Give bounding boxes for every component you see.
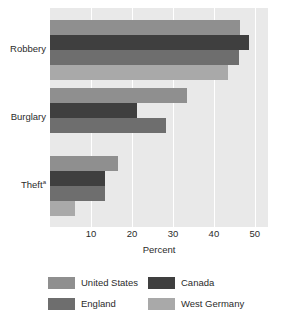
legend-item-england[interactable]: England: [48, 298, 148, 310]
bar-chart-figure: Robbery Burglary Thefta Percent United S…: [0, 0, 283, 312]
bar-robbery-united-states: [50, 20, 240, 35]
x-tick-label-10: 10: [79, 229, 103, 239]
footnote-marker-a: a: [43, 179, 46, 185]
legend-item-west-germany[interactable]: West Germany: [148, 298, 263, 310]
x-tick-label-30: 30: [161, 229, 185, 239]
bar-group-burglary: [50, 88, 268, 148]
legend-item-united-states[interactable]: United States: [48, 277, 148, 289]
x-tick-label-50: 50: [243, 229, 267, 239]
x-tick-label-20: 20: [120, 229, 144, 239]
bar-burglary-united-states: [50, 88, 187, 103]
bar-robbery-canada: [50, 35, 249, 50]
legend-swatch-united-states: [48, 277, 75, 289]
chart-legend: United States Canada England West German…: [48, 272, 263, 312]
bar-theft-england: [50, 186, 105, 201]
bar-theft-canada: [50, 171, 105, 186]
legend-label-west-germany: West Germany: [181, 299, 244, 309]
x-tick-label-40: 40: [202, 229, 226, 239]
legend-label-canada: Canada: [181, 278, 214, 288]
bar-burglary-england: [50, 118, 166, 133]
bar-robbery-west-germany: [50, 65, 228, 80]
category-label-robbery-text: Robbery: [10, 43, 46, 54]
category-label-theft: Thefta: [21, 179, 46, 190]
category-label-burglary-text: Burglary: [11, 111, 46, 122]
category-label-theft-text: Theft: [21, 179, 43, 190]
bar-robbery-england: [50, 50, 239, 65]
legend-swatch-canada: [148, 277, 175, 289]
category-label-burglary: Burglary: [11, 112, 46, 122]
legend-swatch-england: [48, 298, 75, 310]
legend-label-england: England: [81, 299, 116, 309]
legend-label-united-states: United States: [81, 278, 138, 288]
legend-swatch-west-germany: [148, 298, 175, 310]
bar-group-theft: [50, 156, 268, 216]
x-axis-title: Percent: [50, 245, 268, 255]
plot-area: [50, 8, 268, 227]
bar-theft-united-states: [50, 156, 118, 171]
bar-group-robbery: [50, 20, 268, 80]
legend-item-canada[interactable]: Canada: [148, 277, 263, 289]
category-label-robbery: Robbery: [10, 44, 46, 54]
bar-theft-west-germany: [50, 201, 75, 216]
bar-burglary-canada: [50, 103, 137, 118]
